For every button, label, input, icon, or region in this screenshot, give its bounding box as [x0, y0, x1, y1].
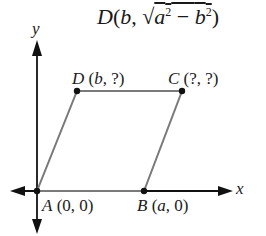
point-d: [74, 88, 80, 94]
x-axis-arrow-right: [218, 186, 233, 196]
y-axis-arrow-up: [32, 40, 42, 56]
y-axis-label: y: [32, 20, 40, 37]
formula-label: D(b, √a2 − b2): [97, 6, 219, 28]
parallelogram-abcd: [37, 91, 182, 191]
point-d-name: D: [72, 69, 84, 88]
point-a-name: A: [42, 196, 52, 215]
point-a: [34, 188, 40, 194]
x-axis-arrow-left: [10, 186, 25, 196]
point-b-name: B: [137, 196, 147, 215]
point-a-coords: (0, 0): [57, 196, 94, 215]
formula-y-expr: √a2 − b2: [142, 4, 212, 29]
formula-x: b: [120, 4, 131, 29]
point-d-coords: (b, ?): [89, 69, 125, 88]
point-c-label: C (?, ?): [168, 70, 219, 87]
point-a-label: A (0, 0): [42, 197, 93, 214]
y-axis-arrow-down: [32, 219, 42, 234]
point-d-label: D (b, ?): [72, 70, 124, 87]
point-b-coords: (a, 0): [152, 196, 189, 215]
point-c: [179, 88, 185, 94]
x-axis-label: x: [236, 180, 244, 197]
point-b-label: B (a, 0): [137, 197, 188, 214]
formula-point-name: D: [97, 4, 113, 29]
point-b: [141, 188, 147, 194]
point-c-name: C: [168, 69, 179, 88]
point-c-coords: (?, ?): [184, 69, 219, 88]
